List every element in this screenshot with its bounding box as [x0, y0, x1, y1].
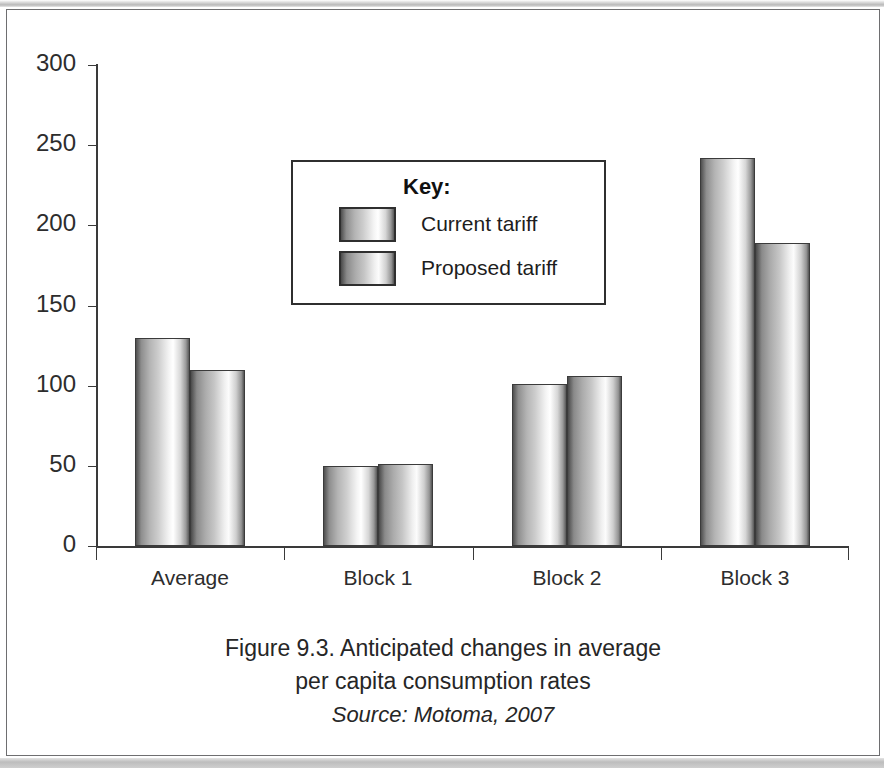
x-axis-divider-tick [284, 547, 285, 560]
caption-source: Source: Motoma, 2007 [6, 698, 880, 731]
x-axis-tick-label: Block 1 [298, 566, 458, 590]
y-axis-tick-label: 250 [6, 129, 76, 157]
x-axis-tick-label: Average [110, 566, 270, 590]
x-axis-end-tick [848, 547, 849, 560]
bar [190, 370, 245, 546]
y-axis-tick-label: 300 [6, 49, 76, 77]
y-axis-tick-mark [88, 65, 97, 66]
y-axis-tick-mark [88, 386, 97, 387]
legend-label-proposed-tariff: Proposed tariff [421, 256, 557, 280]
proposed-tariff-swatch [339, 251, 396, 286]
chart-legend: Key: Current tariff Proposed tariff [291, 160, 606, 305]
y-axis-tick-label: 200 [6, 209, 76, 237]
y-axis-tick-mark [88, 306, 97, 307]
bar [323, 466, 378, 546]
current-tariff-swatch [339, 207, 396, 242]
caption-line-1: Figure 9.3. Anticipated changes in avera… [6, 632, 880, 665]
x-axis-divider-tick [473, 547, 474, 560]
bar [567, 376, 622, 546]
y-axis-tick-label: 100 [6, 370, 76, 398]
y-axis-tick-mark [88, 225, 97, 226]
y-axis-tick-label: 50 [6, 450, 76, 478]
y-axis-tick-label: 0 [6, 530, 76, 558]
y-axis-tick-label: 150 [6, 290, 76, 318]
caption-line-2: per capita consumption rates [6, 665, 880, 698]
bar [700, 158, 755, 546]
legend-title: Key: [403, 174, 451, 200]
x-axis-divider-tick [661, 547, 662, 560]
y-axis-tick-mark [88, 466, 97, 467]
bar [755, 243, 810, 546]
x-axis-tick-label: Block 2 [487, 566, 647, 590]
bar [135, 338, 190, 546]
figure-caption: Figure 9.3. Anticipated changes in avera… [6, 632, 880, 731]
x-axis-origin-tick [96, 547, 97, 560]
legend-label-current-tariff: Current tariff [421, 212, 537, 236]
bar [512, 384, 567, 546]
x-axis-tick-label: Block 3 [675, 566, 835, 590]
bar [378, 464, 433, 546]
y-axis-tick-mark [88, 145, 97, 146]
